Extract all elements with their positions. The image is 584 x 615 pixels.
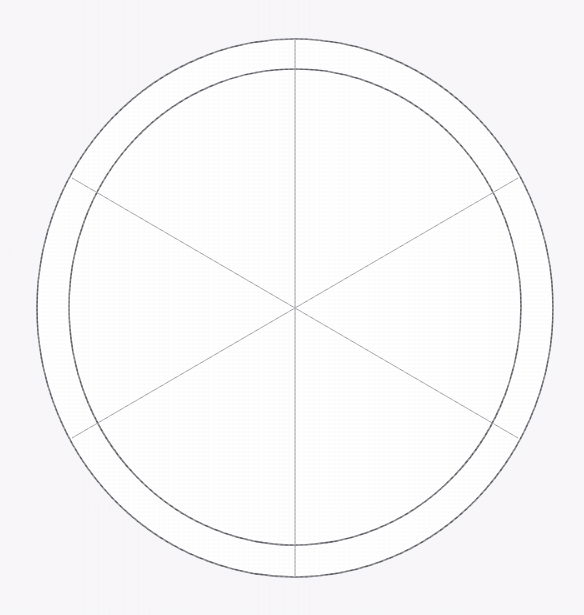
circle-sector-diagram: Circle divided into six equal sectors Tw… [0, 0, 584, 615]
figure-canvas: Circle divided into six equal sectors Tw… [0, 0, 584, 615]
